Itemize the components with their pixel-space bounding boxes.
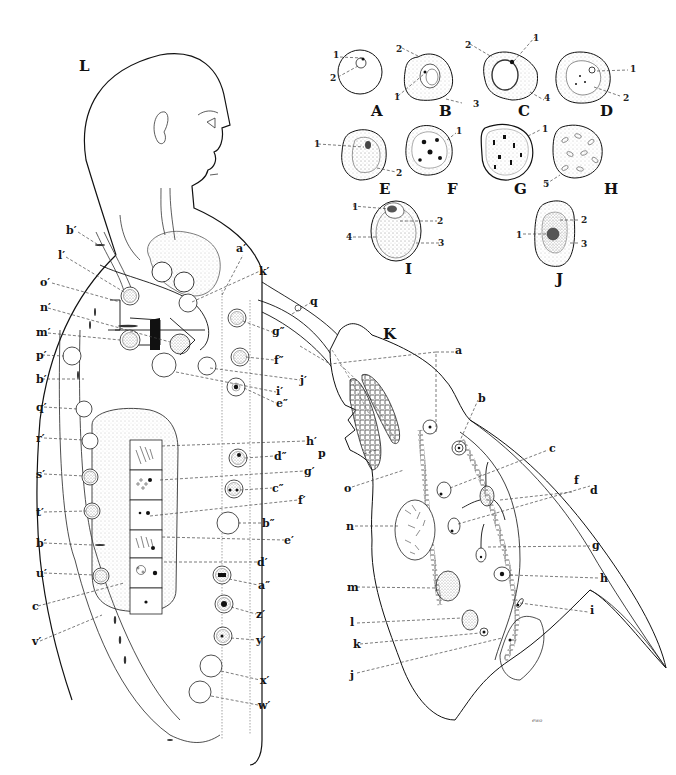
panel-D-drawing [556, 52, 610, 103]
cell-kprime [179, 294, 197, 312]
label-p-prime: p′ [36, 350, 47, 361]
label-y-prime: y′ [256, 635, 265, 646]
E-part-2: 2 [396, 169, 402, 178]
label-c-left: c [32, 601, 39, 612]
K-label-n: n [346, 521, 354, 532]
panel-G-drawing [481, 125, 533, 181]
panel-J-drawing [535, 201, 575, 266]
label-g-prime: g′ [304, 466, 315, 477]
A-part-1: 1 [333, 51, 339, 60]
label-e-prime: e′ [284, 535, 294, 546]
vessel-bulb [174, 272, 194, 292]
F-part-1: 1 [456, 127, 462, 136]
C-part-2: 2 [465, 41, 471, 50]
K-label-l: l [350, 617, 354, 628]
panel-label-K: K [383, 327, 396, 342]
label-r-prime: r′ [36, 433, 45, 444]
label-f-double-prime: f″ [274, 355, 284, 366]
panel-label-D: D [600, 104, 613, 119]
label-e-double-prime: e″ [276, 398, 288, 409]
panel-label-A: A [371, 104, 383, 119]
K-label-a: a [455, 345, 462, 356]
label-b-prime-3: b′ [36, 538, 47, 549]
artist-signature: ewo [532, 717, 542, 723]
H-part-5: 5 [543, 180, 549, 189]
human-body-outline [37, 54, 262, 765]
K-label-h: h [600, 573, 608, 584]
label-z-prime: z′ [256, 609, 265, 620]
label-q: q [310, 296, 318, 307]
I-part-2: 2 [437, 217, 443, 226]
I-part-1: 1 [352, 203, 358, 212]
panel-B-drawing [404, 54, 452, 100]
right-cell-fill [216, 312, 247, 643]
label-g-double-prime: g″ [272, 326, 285, 337]
anatomical-figure: L K A B C D E F G H I J 1 2 2 1 3 2 1 4 … [0, 0, 676, 775]
figure-drawing [0, 0, 676, 775]
I-part-4: 4 [346, 233, 352, 242]
cell-iprime [152, 353, 176, 377]
label-t-prime: t′ [36, 507, 44, 518]
panel-label-H: H [604, 182, 618, 197]
label-n-prime: n′ [40, 302, 51, 313]
D-part-1: 1 [630, 65, 636, 74]
cell-nprime [170, 334, 190, 354]
label-v-prime: v′ [32, 636, 41, 647]
K-l-mass [462, 610, 478, 630]
B-part-1: 1 [394, 93, 400, 102]
K-label-m: m [347, 582, 359, 593]
label-s-prime: s′ [36, 469, 45, 480]
K-label-j: j [350, 670, 354, 681]
panel-label-F: F [447, 182, 458, 197]
K-label-c: c [549, 443, 556, 454]
J-part-3: 3 [581, 240, 587, 249]
label-a-double-prime: a″ [258, 580, 270, 591]
B-part-2: 2 [396, 45, 402, 54]
panel-A-drawing [338, 50, 382, 94]
panel-label-J: J [556, 272, 563, 287]
label-d-double-prime: d″ [274, 451, 287, 462]
label-i-prime: i′ [276, 386, 283, 397]
organ-chambers [130, 440, 162, 614]
J-part-2: 2 [581, 216, 587, 225]
E-part-1: 1 [314, 140, 320, 149]
K-m-mass [436, 571, 460, 601]
label-b-prime-2: b′ [36, 374, 47, 385]
label-q-prime: q′ [36, 402, 47, 413]
B-part-3: 3 [473, 100, 479, 109]
label-x-prime: x′ [260, 675, 269, 686]
A-part-2: 2 [330, 74, 336, 83]
panel-H-drawing [553, 125, 602, 178]
panel-C-drawing [484, 52, 538, 100]
panel-E-drawing [342, 130, 387, 180]
K-label-k: k [353, 639, 361, 650]
label-c-double-prime: c″ [272, 483, 284, 494]
K-label-p: p [318, 448, 326, 459]
K-d-cell [480, 486, 494, 506]
K-label-d: d [590, 485, 598, 496]
label-a-prime: a′ [236, 243, 246, 254]
label-u-prime: u′ [36, 568, 47, 579]
label-k-prime: k′ [259, 266, 270, 277]
C-part-4: 4 [544, 94, 550, 103]
K-label-b: b [478, 393, 486, 404]
G-part-1: 1 [542, 125, 548, 134]
label-b-prime: b′ [66, 225, 77, 236]
panel-label-G: G [514, 182, 527, 197]
dark-wedge [150, 318, 160, 350]
label-f-prime: f′ [298, 495, 306, 506]
label-j-prime: j′ [300, 375, 307, 386]
label-l-prime: l′ [58, 250, 65, 261]
panel-label-I: I [405, 262, 412, 277]
K-label-i: i [590, 605, 594, 616]
J-part-1: 1 [516, 231, 522, 240]
label-o-prime: o′ [40, 277, 50, 288]
panel-label-C: C [518, 104, 530, 119]
label-h-prime: h′ [306, 436, 317, 447]
D-part-2: 2 [623, 94, 629, 103]
panel-label-L: L [79, 59, 90, 74]
panel-label-B: B [439, 104, 452, 119]
label-m-prime: m′ [36, 327, 51, 338]
panel-label-E: E [379, 182, 390, 197]
label-b-double-prime: b″ [262, 518, 275, 529]
